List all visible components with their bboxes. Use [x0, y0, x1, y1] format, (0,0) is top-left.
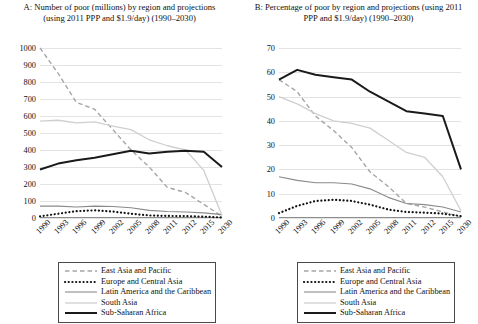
legend-item-label: East Asia and Pacific: [99, 266, 171, 277]
y-axis-tick-label: 200: [24, 180, 36, 189]
panel-b-title: B: Percentage of poor by region and proj…: [253, 2, 464, 23]
series-line: [279, 70, 461, 170]
legend-item-label: Sub-Saharan Africa: [338, 308, 405, 319]
x-axis-tick-label: 2008: [383, 218, 401, 236]
legend-swatch-icon: [63, 298, 99, 308]
legend-swatch-icon: [63, 277, 99, 287]
legend-item-label: Latin America and the Caribbean: [338, 287, 450, 298]
legend-swatch-icon: [302, 287, 338, 297]
series-line: [40, 210, 222, 217]
x-axis-tick-label: 1999: [328, 218, 346, 236]
y-axis-tick-label: 30: [267, 141, 275, 150]
x-axis-tick-label: 2012: [180, 218, 198, 236]
x-axis-tick-label: 1999: [89, 218, 107, 236]
series-line: [279, 97, 461, 211]
panel-b-legend: East Asia and PacificEurope and Central …: [297, 262, 455, 323]
legend-swatch-icon: [302, 298, 338, 308]
legend-swatch-icon: [63, 287, 99, 297]
y-axis-tick-label: 400: [24, 146, 36, 155]
x-axis-tick-label: 2008: [144, 218, 162, 236]
x-axis-tick-label: 1993: [53, 218, 71, 236]
x-axis-tick-label: 1993: [292, 218, 310, 236]
series-line: [279, 177, 461, 212]
x-axis-tick-label: 2002: [107, 218, 125, 236]
panel-b: B: Percentage of poor by region and proj…: [239, 0, 478, 324]
legend-item-label: South Asia: [338, 298, 376, 309]
legend-item: Europe and Central Asia: [302, 277, 449, 288]
y-axis-tick-label: 60: [267, 68, 275, 77]
y-axis-tick-label: 0: [271, 214, 275, 223]
legend-item-label: Latin America and the Caribbean: [99, 287, 211, 298]
series-line: [40, 120, 222, 215]
y-axis-tick-label: 70: [267, 44, 275, 53]
legend-swatch-icon: [302, 277, 338, 287]
x-axis-tick-label: 2015: [437, 218, 455, 236]
legend-item: Latin America and the Caribbean: [302, 287, 449, 298]
x-axis-tick-label: 2011: [401, 218, 419, 236]
legend-swatch-icon: [63, 266, 99, 276]
legend-swatch-icon: [302, 266, 338, 276]
figure-root: A: Number of poor (millions) by region a…: [0, 0, 478, 324]
panel-a-title: A: Number of poor (millions) by region a…: [14, 2, 225, 23]
x-axis-tick-label: 1996: [71, 218, 89, 236]
y-axis-tick-label: 20: [267, 165, 275, 174]
legend-item: East Asia and Pacific: [302, 266, 449, 277]
y-axis-tick-label: 100: [24, 197, 36, 206]
y-axis-tick-label: 700: [24, 95, 36, 104]
legend-item-label: Europe and Central Asia: [338, 277, 421, 288]
legend-item: Europe and Central Asia: [63, 277, 210, 288]
panel-a-legend: East Asia and PacificEurope and Central …: [58, 262, 216, 323]
y-axis-tick-label: 600: [24, 112, 36, 121]
legend-item: South Asia: [302, 298, 449, 309]
legend-item-label: South Asia: [99, 298, 137, 309]
y-axis-tick-label: 900: [24, 61, 36, 70]
panel-a-plot-area: 0100200300400500600700800900100019901993…: [40, 48, 222, 218]
legend-item: Latin America and the Caribbean: [63, 287, 210, 298]
legend-item-label: East Asia and Pacific: [338, 266, 410, 277]
y-axis-tick-label: 300: [24, 163, 36, 172]
series-layer: [279, 48, 461, 219]
legend-item: Sub-Saharan Africa: [63, 308, 210, 319]
y-axis-tick-label: 40: [267, 116, 275, 125]
panel-b-plot-area: 0102030405060701990199319961999200220052…: [279, 48, 461, 218]
y-axis-tick-label: 50: [267, 92, 275, 101]
legend-item: Sub-Saharan Africa: [302, 308, 449, 319]
legend-item: East Asia and Pacific: [63, 266, 210, 277]
legend-swatch-icon: [302, 308, 338, 318]
y-axis-tick-label: 800: [24, 78, 36, 87]
x-axis-tick-label: 1996: [310, 218, 328, 236]
x-axis-tick-label: 2005: [364, 218, 382, 236]
y-axis-tick-label: 1000: [19, 44, 36, 53]
series-line: [279, 200, 461, 216]
series-line: [279, 80, 461, 217]
legend-item-label: Sub-Saharan Africa: [99, 308, 166, 319]
x-axis-tick-label: 2011: [162, 218, 180, 236]
panel-a: A: Number of poor (millions) by region a…: [0, 0, 239, 324]
legend-swatch-icon: [63, 308, 99, 318]
y-axis-tick-label: 500: [24, 129, 36, 138]
x-axis-tick-label: 1990: [34, 218, 52, 236]
y-axis-tick-label: 10: [267, 189, 275, 198]
x-axis-tick-label: 1990: [273, 218, 291, 236]
legend-item-label: Europe and Central Asia: [99, 277, 182, 288]
series-line: [40, 48, 222, 216]
x-axis-tick-label: 2015: [198, 218, 216, 236]
x-axis-tick-label: 2005: [125, 218, 143, 236]
x-axis-tick-label: 2030: [216, 218, 234, 236]
x-axis-tick-label: 2012: [419, 218, 437, 236]
legend-item: South Asia: [63, 298, 210, 309]
y-axis-tick-label: 0: [32, 214, 36, 223]
series-layer: [40, 48, 222, 219]
x-axis-tick-label: 2002: [346, 218, 364, 236]
x-axis-tick-label: 2030: [455, 218, 473, 236]
